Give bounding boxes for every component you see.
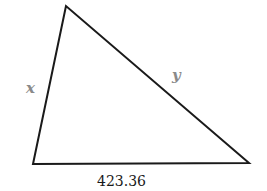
triangle: [33, 6, 249, 164]
triangle-diagram: x y 423.36: [0, 0, 267, 191]
side-label-x: x: [25, 79, 36, 97]
side-label-base: 423.36: [97, 173, 146, 189]
side-label-y: y: [171, 66, 182, 84]
